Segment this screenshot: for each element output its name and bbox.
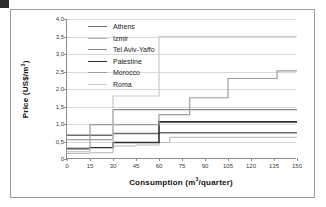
plot-area: 00,51,01,52,02,53,03,54,0 01530456075901… xyxy=(66,19,296,159)
legend-swatch xyxy=(88,26,107,27)
legend-item: Izmir xyxy=(88,33,155,45)
x-tick-label: 105 xyxy=(223,163,233,169)
x-tick-label: 150 xyxy=(292,163,302,169)
legend-item: Palestine xyxy=(88,56,155,68)
legend-swatch xyxy=(88,49,107,50)
x-tick-label: 0 xyxy=(65,163,68,169)
y-axis-title: Price (US$/m3) xyxy=(19,19,31,159)
legend-label: Roma xyxy=(113,81,132,88)
y-tick-label: 3,0 xyxy=(56,51,64,57)
figure-container: Price (US$/m3) 00,51,01,52,02,53,03,54,0… xyxy=(0,0,326,207)
legend-label: Izmir xyxy=(113,35,128,42)
legend-label: Palestine xyxy=(113,58,142,65)
x-tick-label: 15 xyxy=(87,163,94,169)
x-tick-label: 90 xyxy=(202,163,209,169)
y-tick-label: 2,5 xyxy=(56,69,64,75)
legend-item: Tel Aviv-Yaffo xyxy=(88,44,155,56)
legend: AthensIzmirTel Aviv-YaffoPalestineMorocc… xyxy=(88,21,155,90)
legend-label: Tel Aviv-Yaffo xyxy=(113,46,155,53)
x-axis-title: Consumption (m3/quarter) xyxy=(66,176,296,187)
y-tick-label: 4,0 xyxy=(56,16,64,22)
y-tick-label: 0,5 xyxy=(56,139,64,145)
y-axis-title-sup: 3 xyxy=(20,63,26,66)
y-axis-title-text: Price (US$/m xyxy=(21,66,30,118)
legend-item: Athens xyxy=(88,21,155,33)
x-tick-label: 135 xyxy=(269,163,279,169)
x-tick-label: 45 xyxy=(133,163,140,169)
legend-swatch xyxy=(88,84,107,85)
y-axis-title-tail: ) xyxy=(21,60,30,63)
x-tick-label: 75 xyxy=(179,163,186,169)
y-tick-label: 1,0 xyxy=(56,121,64,127)
legend-swatch xyxy=(88,72,107,73)
x-tick-mark xyxy=(297,158,298,161)
x-axis-title-text: Consumption (m xyxy=(129,178,195,187)
legend-item: Roma xyxy=(88,79,155,91)
x-axis-title-tail: /quarter) xyxy=(199,178,233,187)
x-tick-label: 30 xyxy=(110,163,117,169)
series-line xyxy=(67,133,297,135)
y-tick-label: 1,5 xyxy=(56,104,64,110)
legend-label: Morocco xyxy=(113,69,140,76)
legend-item: Morocco xyxy=(88,67,155,79)
legend-swatch xyxy=(88,61,107,62)
legend-swatch xyxy=(88,38,107,39)
x-tick-label: 60 xyxy=(156,163,163,169)
y-tick-label: 2,0 xyxy=(56,86,64,92)
x-tick-label: 120 xyxy=(246,163,256,169)
legend-label: Athens xyxy=(113,23,135,30)
figure-label-marker xyxy=(0,0,9,8)
y-tick-label: 3,5 xyxy=(56,34,64,40)
